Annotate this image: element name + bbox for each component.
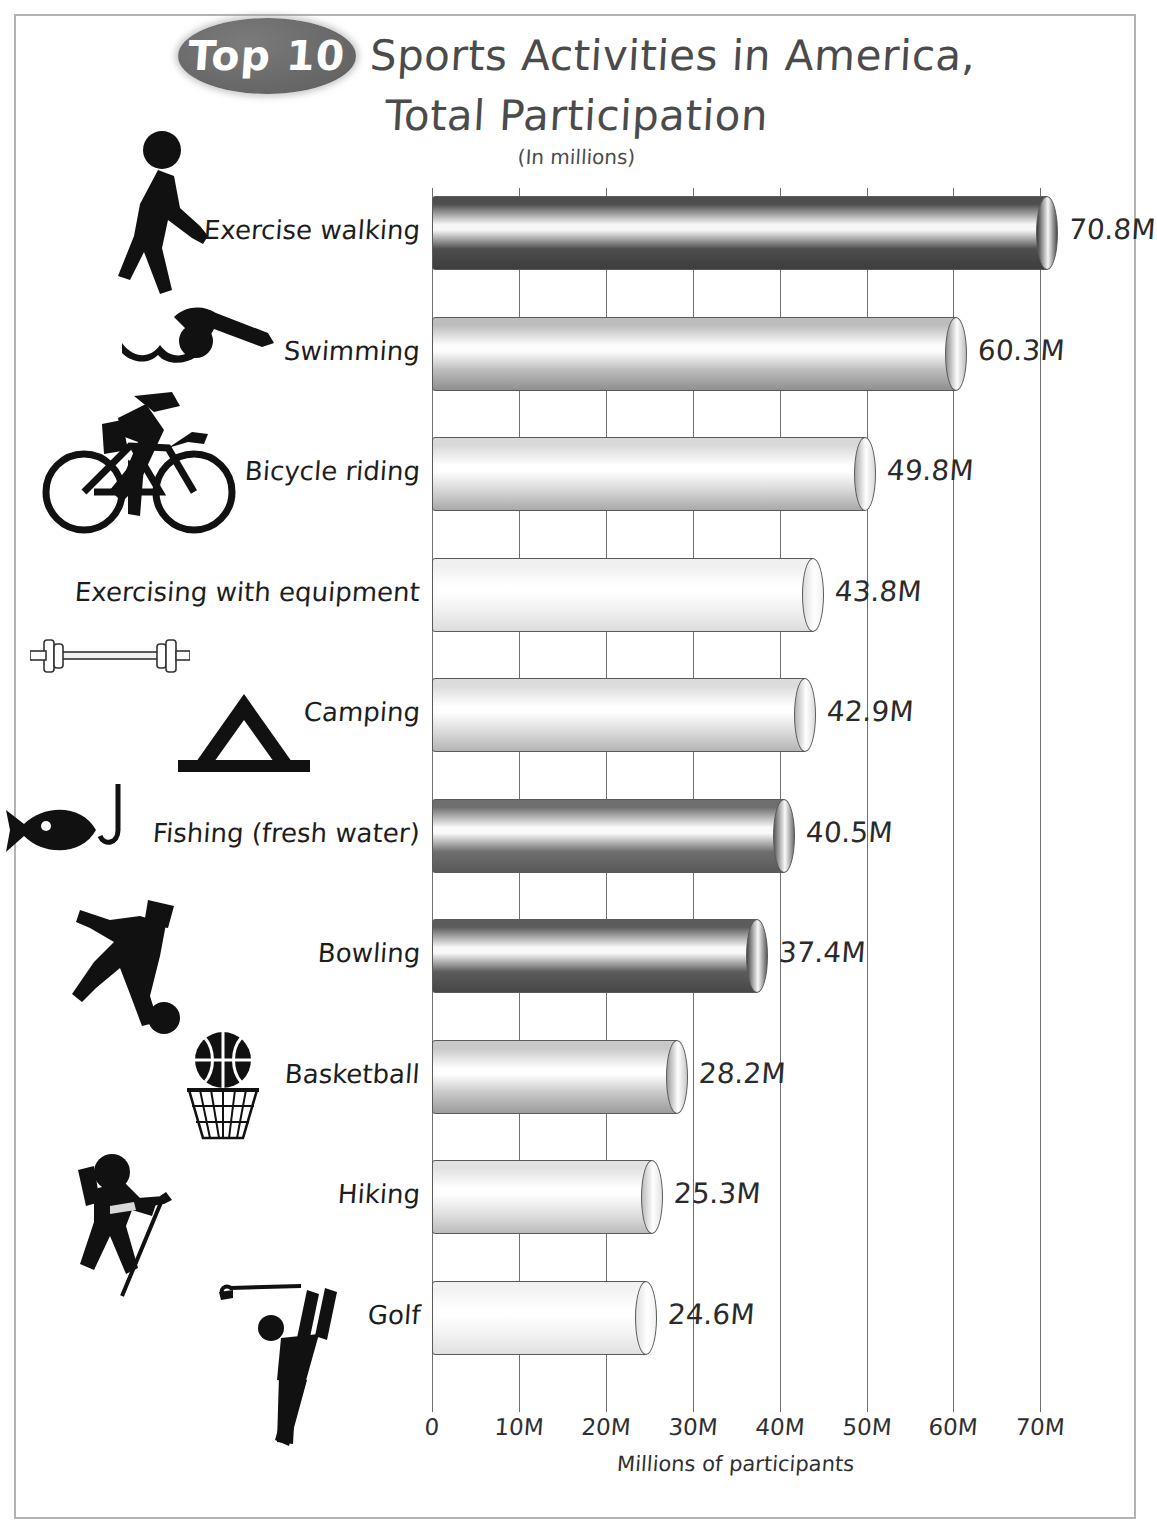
bar-end-cap [1036, 196, 1058, 270]
bar-cylinder[interactable] [432, 1281, 646, 1355]
fish-hook-icon [0, 782, 130, 872]
swimming-icon [122, 303, 282, 365]
basketball-hoop-icon [175, 1030, 271, 1142]
bar-end-cap [773, 799, 795, 873]
bar-cylinder[interactable] [432, 678, 805, 752]
category-label: Fishing (fresh water) [152, 818, 421, 848]
bar-cylinder[interactable] [432, 558, 813, 632]
bar-cylinder[interactable] [432, 919, 757, 993]
bar-end-cap [854, 437, 876, 511]
x-axis-tick [693, 1390, 694, 1412]
category-label: Golf [367, 1300, 422, 1330]
x-axis-tick-label: 0 [386, 1414, 478, 1440]
bar-value-label: 28.2M [698, 1057, 787, 1090]
bar-cylinder[interactable] [432, 437, 865, 511]
bar-cylinder[interactable] [432, 196, 1047, 270]
bar-value-label: 25.3M [673, 1177, 762, 1210]
bar-value-label: 43.8M [833, 575, 922, 608]
bar-row: Fishing (fresh water)40.5M [0, 799, 1153, 873]
category-label: Swimming [283, 336, 421, 366]
bar-cylinder[interactable] [432, 1160, 652, 1234]
hiking-icon [64, 1150, 194, 1310]
bar-end-cap [746, 919, 768, 993]
bicycle-icon [42, 390, 237, 535]
bar-cylinder[interactable] [432, 1040, 677, 1114]
x-axis-tick-label: 70M [994, 1414, 1086, 1440]
category-label: Exercise walking [203, 215, 421, 245]
bar-row: Exercising with equipment43.8M [0, 558, 1153, 632]
bar-value-label: 70.8M [1068, 213, 1157, 246]
bar-value-label: 49.8M [886, 454, 975, 487]
bar-end-cap [641, 1160, 663, 1234]
tent-icon [170, 690, 318, 776]
walking-icon [100, 130, 215, 305]
bar-row: Basketball28.2M [0, 1040, 1153, 1114]
x-axis-tick-label: 30M [647, 1414, 739, 1440]
x-axis-tick-label: 60M [907, 1414, 999, 1440]
bowling-icon [62, 898, 190, 1038]
bar-end-cap [794, 678, 816, 752]
category-label: Exercising with equipment [74, 577, 421, 607]
x-axis-tick [606, 1390, 607, 1412]
x-axis-tick [519, 1390, 520, 1412]
bar-end-cap [945, 317, 967, 391]
x-axis-tick-label: 40M [734, 1414, 826, 1440]
x-axis-tick-label: 50M [821, 1414, 913, 1440]
x-axis-tick [953, 1390, 954, 1412]
x-axis-title: Millions of participants [616, 1452, 855, 1476]
category-label: Hiking [337, 1179, 421, 1209]
bar-end-cap [666, 1040, 688, 1114]
x-axis-tick-label: 20M [560, 1414, 652, 1440]
category-label: Basketball [284, 1059, 421, 1089]
bar-cylinder[interactable] [432, 799, 784, 873]
bar-value-label: 37.4M [778, 936, 867, 969]
x-axis-tick [1040, 1390, 1041, 1412]
bar-end-cap [802, 558, 824, 632]
x-axis-tick-label: 10M [473, 1414, 565, 1440]
bar-value-label: 60.3M [977, 334, 1066, 367]
bar-value-label: 24.6M [667, 1298, 756, 1331]
category-label: Bicycle riding [244, 456, 421, 486]
bar-value-label: 42.9M [826, 695, 915, 728]
bar-value-label: 40.5M [805, 816, 894, 849]
golf-icon [215, 1272, 343, 1452]
barbell-icon [30, 632, 190, 680]
bar-cylinder[interactable] [432, 317, 956, 391]
x-axis-tick [867, 1390, 868, 1412]
category-label: Bowling [316, 938, 421, 968]
x-axis-tick [780, 1390, 781, 1412]
bar-end-cap [635, 1281, 657, 1355]
x-axis-tick [432, 1390, 433, 1412]
category-label: Camping [303, 697, 421, 727]
